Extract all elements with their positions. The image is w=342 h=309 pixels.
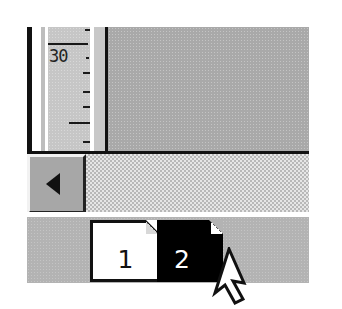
dogear-icon: [144, 220, 158, 234]
scroll-left-button[interactable]: [27, 154, 86, 214]
ruler-margin-stripe: [32, 27, 41, 154]
ruler-label-30: 30: [49, 47, 67, 65]
scrollbar-track[interactable]: [86, 154, 309, 214]
scrollbar-bottom-edge: [27, 212, 309, 215]
page-tab-1[interactable]: 1: [90, 220, 158, 282]
ruler-right-gray: [94, 27, 105, 154]
horizontal-scrollbar[interactable]: [27, 154, 309, 214]
document-content-area[interactable]: [108, 27, 309, 152]
document-window: 30: [27, 27, 309, 154]
ruler-tick: [86, 57, 89, 59]
ruler-major-line: [48, 43, 88, 45]
arrow-pointer-icon: [199, 247, 249, 305]
dogear-icon: [209, 220, 223, 234]
left-triangle-icon: [46, 173, 60, 195]
